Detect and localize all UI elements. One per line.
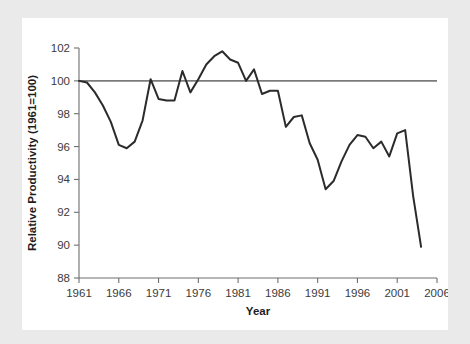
y-axis-tick-labels: 889092949698100102 (51, 42, 71, 284)
x-tick-label-1986: 1986 (265, 287, 291, 299)
x-tick-label-1966: 1966 (106, 287, 132, 299)
x-tick-label-1971: 1971 (146, 287, 172, 299)
y-tick-label-92: 92 (57, 206, 70, 218)
x-tick-label-1976: 1976 (186, 287, 212, 299)
x-tick-label-1991: 1991 (305, 287, 331, 299)
y-axis-ticks (74, 48, 79, 278)
x-tick-label-1981: 1981 (225, 287, 251, 299)
y-tick-label-96: 96 (57, 141, 70, 153)
y-tick-label-94: 94 (57, 173, 70, 185)
x-axis-tick-labels: 1961196619711976198119861991199620012006 (66, 287, 448, 299)
x-tick-label-1996: 1996 (345, 287, 371, 299)
figure-card: 889092949698100102 196119661971197619811… (22, 18, 448, 330)
y-tick-label-100: 100 (51, 75, 70, 87)
productivity-line-chart: 889092949698100102 196119661971197619811… (22, 18, 448, 330)
y-tick-label-102: 102 (51, 42, 70, 54)
x-tick-label-2001: 2001 (384, 287, 410, 299)
y-tick-label-88: 88 (57, 272, 70, 284)
y-tick-label-90: 90 (57, 239, 70, 251)
y-tick-label-98: 98 (57, 108, 70, 120)
y-axis-title: Relative Productivity (1961=100) (26, 75, 38, 251)
x-axis-title: Year (246, 305, 271, 317)
x-axis-ticks (79, 278, 437, 283)
x-tick-label-2006: 2006 (424, 287, 448, 299)
x-tick-label-1961: 1961 (66, 287, 92, 299)
